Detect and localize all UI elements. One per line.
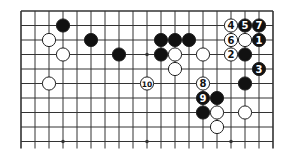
move-number-label: 1 [256,35,263,46]
star-point [145,53,149,57]
star-point [61,140,65,144]
black-stone [238,48,251,61]
black-stone-icon [56,19,69,32]
white-stone [210,106,223,119]
white-stone-icon [210,120,223,133]
black-stone-move-7: 7 [252,19,265,32]
black-stone [84,33,97,46]
black-stone [182,33,195,46]
white-stone-icon [42,77,55,90]
white-stone-icon [168,62,181,75]
move-number-label: 2 [228,49,235,60]
stones-layer: 45761231089 [42,19,265,134]
white-stone-icon [168,48,181,61]
white-stone [168,48,181,61]
move-number-label: 8 [200,78,207,89]
white-stone-icon [238,106,251,119]
white-stone-move-8: 8 [196,77,209,90]
black-stone [112,48,125,61]
black-stone-icon [112,48,125,61]
white-stone [238,33,251,46]
black-stone [196,106,209,119]
move-number-label: 7 [256,20,263,31]
star-point [229,140,233,144]
white-stone-move-6: 6 [224,33,237,46]
white-stone [210,120,223,133]
black-stone-move-9: 9 [196,91,209,104]
move-number-label: 3 [256,64,263,75]
white-stone-icon [196,48,209,61]
black-stone-icon [84,33,97,46]
white-stone-move-2: 2 [224,48,237,61]
black-stone [238,77,251,90]
move-number-label: 4 [228,20,235,31]
white-stone-icon [42,33,55,46]
white-stone [168,62,181,75]
black-stone-move-3: 3 [252,62,265,75]
black-stone [56,19,69,32]
black-stone-icon [238,48,251,61]
white-stone-move-10: 10 [140,77,153,90]
white-stone [42,77,55,90]
black-stone-move-5: 5 [238,19,251,32]
move-number-label: 5 [242,20,249,31]
star-point [145,140,149,144]
black-stone-icon [168,33,181,46]
white-stone [196,48,209,61]
black-stone-icon [210,91,223,104]
move-number-label: 9 [200,93,207,104]
white-stone-move-4: 4 [224,19,237,32]
white-stone-icon [238,33,251,46]
go-board-diagram: 45761231089 [0,0,286,165]
white-stone-icon [56,48,69,61]
black-stone [154,33,167,46]
white-stone [56,48,69,61]
black-stone-move-1: 1 [252,33,265,46]
black-stone-icon [154,33,167,46]
white-stone [238,106,251,119]
white-stone-icon [210,106,223,119]
black-stone-icon [182,33,195,46]
white-stone [42,33,55,46]
black-stone-icon [154,48,167,61]
black-stone-icon [196,106,209,119]
black-stone [168,33,181,46]
move-number-label: 6 [228,35,235,46]
black-stone [210,91,223,104]
move-number-label: 10 [142,80,152,89]
black-stone-icon [238,77,251,90]
black-stone [154,48,167,61]
